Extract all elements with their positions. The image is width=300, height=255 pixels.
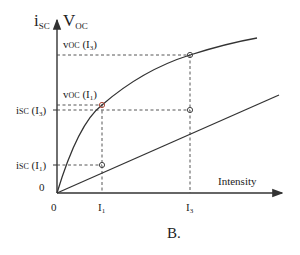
x-tick-i1: I1 xyxy=(98,201,106,215)
voc-curve xyxy=(57,38,257,193)
x-tick-i3: I3 xyxy=(186,201,194,215)
dashed-guides xyxy=(57,55,190,193)
x-axis-label: Intensity xyxy=(218,175,257,187)
origin-x-label: 0 xyxy=(51,201,57,213)
figure-caption: B. xyxy=(167,225,181,241)
y-label-isc-i3: iSC (I3) xyxy=(16,104,46,118)
y-axis-label: iSC xyxy=(34,11,50,31)
origin-y-label: 0 xyxy=(39,181,45,193)
annotation-voc-i1: vOC (I1) xyxy=(63,88,97,102)
y-axis-label-voc: VOC xyxy=(63,11,88,31)
photovoltaic-intensity-diagram: iSC VOC vOC (I3) vOC (I1) iSC (I3) iSC (… xyxy=(0,0,300,255)
annotation-voc-i3: vOC (I3) xyxy=(63,38,97,52)
y-label-isc-i1: iSC (I1) xyxy=(16,159,46,173)
